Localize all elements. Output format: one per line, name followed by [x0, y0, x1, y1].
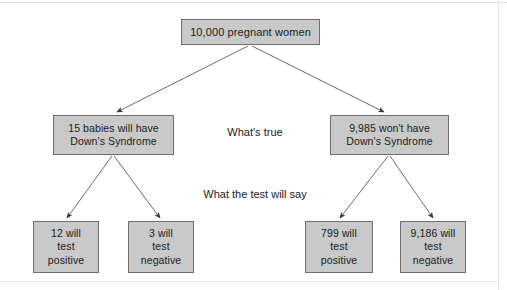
- edge-no-downs-to-tn: [390, 156, 433, 218]
- node-fp-line-2: test: [330, 240, 347, 253]
- edge-root-to-has-downs: [117, 46, 248, 112]
- node-tn-line-2: test: [424, 240, 441, 253]
- edge-root-to-no-downs: [252, 46, 384, 112]
- node-tp-line-1: 12 will: [51, 227, 81, 240]
- node-tp-line-2: test: [57, 240, 74, 253]
- node-fp-line-1: 799 will: [321, 227, 357, 240]
- probability-tree-figure: 10,000 pregnant women 15 babies will hav…: [0, 0, 507, 290]
- node-has-downs-line-1: 15 babies will have: [68, 122, 159, 135]
- node-test-negative-with-downs: 3 will test negative: [128, 221, 194, 273]
- edge-has-downs-to-tp: [67, 156, 112, 218]
- node-root-line-1: 10,000 pregnant women: [190, 25, 311, 39]
- edge-has-downs-to-fn: [114, 156, 160, 218]
- node-fp-line-3: positive: [321, 254, 357, 267]
- caption-whats-true: What's true: [155, 126, 355, 138]
- node-test-positive-with-downs: 12 will test positive: [33, 221, 99, 273]
- node-no-downs-line-1: 9,985 won't have: [349, 122, 430, 135]
- node-test-negative-without-downs: 9,186 will test negative: [400, 221, 466, 273]
- node-tn-line-3: negative: [413, 254, 454, 267]
- node-tp-line-3: positive: [48, 254, 84, 267]
- caption-what-the-test-will-say: What the test will say: [155, 188, 355, 200]
- node-fn-line-3: negative: [141, 254, 182, 267]
- edge-no-downs-to-fp: [340, 156, 388, 218]
- node-test-positive-without-downs: 799 will test positive: [305, 221, 373, 273]
- node-has-downs-line-2: Down's Syndrome: [70, 135, 156, 148]
- node-fn-line-2: test: [152, 240, 169, 253]
- node-fn-line-1: 3 will: [149, 227, 173, 240]
- node-no-downs-line-2: Down's Syndrome: [346, 135, 432, 148]
- node-root: 10,000 pregnant women: [181, 19, 320, 45]
- node-tn-line-1: 9,186 will: [411, 227, 456, 240]
